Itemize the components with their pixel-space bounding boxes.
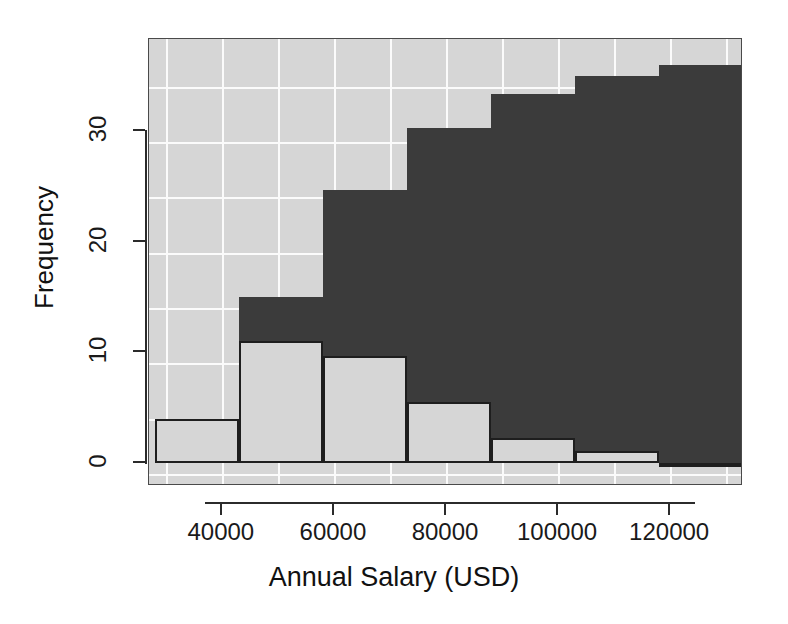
histogram-figure: 0102030 400006000080000100000120000 Freq… [0, 0, 788, 624]
x-tick [668, 502, 670, 515]
histogram-bar [491, 94, 575, 463]
x-tick-label: 120000 [629, 518, 709, 546]
y-axis-line [145, 130, 147, 464]
x-tick [220, 502, 222, 515]
y-tick-label: 10 [84, 330, 112, 370]
x-tick-label: 100000 [517, 518, 597, 546]
x-tick-label: 40000 [187, 518, 254, 546]
y-tick [133, 240, 145, 242]
x-tick [556, 502, 558, 515]
y-tick [133, 129, 145, 131]
y-tick-label: 20 [84, 220, 112, 260]
y-tick [133, 461, 145, 463]
histogram-bar [407, 402, 491, 463]
x-tick-label: 80000 [412, 518, 479, 546]
x-tick-label: 60000 [300, 518, 367, 546]
histogram-bar [575, 451, 659, 463]
y-axis-title: Frequency [29, 138, 60, 358]
x-tick [444, 502, 446, 515]
x-axis-title: Annual Salary (USD) [0, 562, 788, 593]
histogram-bar [323, 356, 407, 463]
y-tick-label: 30 [84, 109, 112, 149]
histogram-bar [491, 438, 575, 463]
plot-panel [148, 38, 742, 485]
histogram-bar [659, 463, 742, 467]
histogram-bar [155, 419, 239, 463]
histogram-bar [575, 76, 659, 463]
x-axis-line [205, 502, 695, 504]
bars-layer [149, 39, 741, 484]
histogram-bar [239, 341, 323, 463]
histogram-bar [659, 65, 742, 463]
x-tick [332, 502, 334, 515]
y-tick [133, 350, 145, 352]
y-tick-label: 0 [84, 441, 112, 481]
